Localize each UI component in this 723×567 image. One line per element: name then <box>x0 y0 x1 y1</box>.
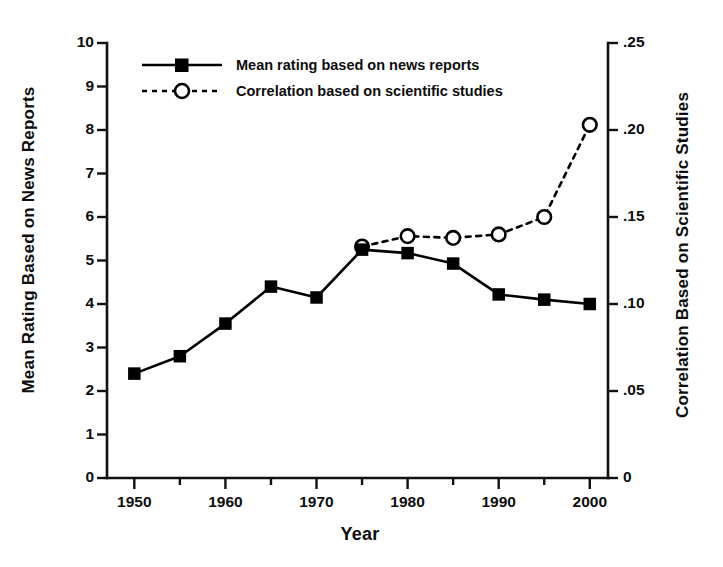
data-point-marker-circle <box>401 229 415 243</box>
y-axis-right-ticks <box>608 43 618 478</box>
y-right-tick-label-1: .05 <box>623 381 667 399</box>
axis-spines <box>107 43 608 478</box>
data-point-marker-square <box>174 350 187 363</box>
y-right-tick-label-4: .20 <box>623 120 667 138</box>
y-right-tick-label-5: .25 <box>623 33 667 51</box>
x-tick-label-2000: 2000 <box>560 493 620 511</box>
legend-marker-open-circle <box>175 84 189 98</box>
x-tick-label-1970: 1970 <box>287 493 347 511</box>
data-point-marker-square <box>492 288 505 301</box>
y-left-tick-label-5: 5 <box>54 251 94 269</box>
data-point-marker-square <box>447 257 460 270</box>
y-right-tick-label-0: 0 <box>623 468 667 486</box>
data-point-marker-square <box>584 298 597 311</box>
series-correlation-line <box>355 118 596 253</box>
x-axis-ticks <box>134 478 589 489</box>
y-left-tick-label-8: 8 <box>54 120 94 138</box>
legend-marker-filled-square <box>175 59 189 73</box>
y-left-tick-label-6: 6 <box>54 207 94 225</box>
series-path-mean-rating <box>134 250 589 374</box>
legend-swatches <box>142 59 222 99</box>
data-point-marker-square <box>128 367 141 380</box>
data-point-marker-circle <box>446 231 460 245</box>
data-point-marker-square <box>538 293 551 306</box>
y-axis-left-title: Mean Rating Based on News Reports <box>14 20 44 460</box>
x-tick-label-1980: 1980 <box>378 493 438 511</box>
legend-label-mean-rating: Mean rating based on news reports <box>236 57 479 73</box>
chart-figure: Mean Rating Based on News Reports Correl… <box>0 0 723 567</box>
x-axis-title: Year <box>250 524 470 545</box>
data-point-marker-circle <box>537 210 551 224</box>
legend-label-correlation: Correlation based on scientific studies <box>236 83 503 99</box>
data-point-marker-circle <box>583 118 597 132</box>
y-right-tick-label-3: .15 <box>623 207 667 225</box>
series-mean-rating-line <box>128 243 596 379</box>
y-right-tick-label-2: .10 <box>623 294 667 312</box>
y-left-tick-label-4: 4 <box>54 294 94 312</box>
data-point-marker-square <box>310 291 323 304</box>
y-left-tick-label-1: 1 <box>54 425 94 443</box>
y-left-tick-label-0: 0 <box>54 468 94 486</box>
data-point-marker-square <box>356 243 369 256</box>
y-left-tick-label-3: 3 <box>54 338 94 356</box>
series-path-correlation <box>362 125 590 247</box>
y-left-tick-label-7: 7 <box>54 164 94 182</box>
data-point-marker-circle <box>492 228 506 242</box>
data-point-marker-square <box>219 317 232 330</box>
data-point-marker-square <box>265 280 278 293</box>
x-tick-label-1950: 1950 <box>104 493 164 511</box>
x-tick-label-1960: 1960 <box>195 493 255 511</box>
data-point-marker-square <box>401 247 414 259</box>
y-axis-right-title: Correlation Based on Scientific Studies <box>668 40 698 470</box>
y-left-tick-label-10: 10 <box>54 33 94 51</box>
y-left-tick-label-2: 2 <box>54 381 94 399</box>
x-tick-label-1990: 1990 <box>469 493 529 511</box>
y-axis-left-ticks <box>97 43 107 478</box>
y-left-tick-label-9: 9 <box>54 77 94 95</box>
